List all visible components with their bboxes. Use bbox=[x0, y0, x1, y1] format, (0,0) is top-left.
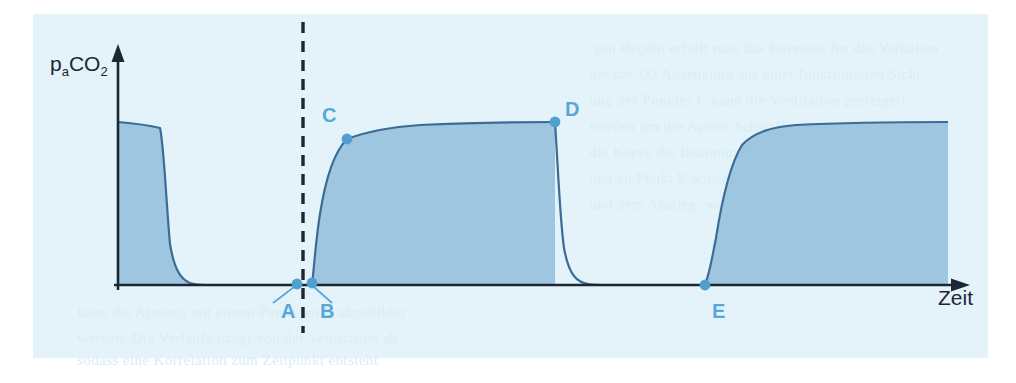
paco2-time-plot bbox=[0, 0, 1016, 383]
paco2-area-fill bbox=[118, 122, 555, 285]
point-label-a: A bbox=[281, 300, 295, 323]
point-label-e: E bbox=[712, 300, 725, 323]
y-axis-label-p: p bbox=[50, 52, 62, 75]
paco2-curve-fall-d-to-e bbox=[555, 122, 705, 285]
point-label-b: B bbox=[320, 300, 334, 323]
x-axis-label: Zeit bbox=[938, 286, 973, 310]
y-axis-arrowhead bbox=[112, 44, 125, 62]
data-point-e[interactable] bbox=[700, 280, 711, 291]
y-axis-label-sub-2: 2 bbox=[100, 64, 107, 79]
y-axis-label-co: CO bbox=[69, 52, 101, 75]
figure-container: gen Regeln erfullt man das Interesse fur… bbox=[0, 0, 1016, 383]
y-axis-label: paCO2 bbox=[50, 52, 108, 79]
data-point-d[interactable] bbox=[550, 117, 561, 128]
data-point-c[interactable] bbox=[342, 134, 353, 145]
data-point-a[interactable] bbox=[292, 279, 303, 290]
data-point-b[interactable] bbox=[307, 278, 318, 289]
curve-area-group bbox=[118, 122, 948, 285]
point-label-c: C bbox=[322, 104, 336, 127]
y-axis-label-sub-a: a bbox=[62, 64, 69, 79]
point-label-d: D bbox=[565, 98, 579, 121]
